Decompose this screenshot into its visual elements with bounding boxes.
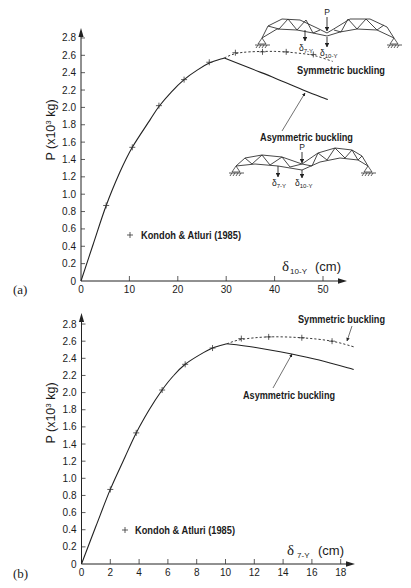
y-tick-label: 1.0	[62, 189, 76, 200]
annotation-asymmetric-buckling: Asymmetric buckling	[243, 390, 335, 401]
y-tick-label: 1.2	[63, 456, 77, 467]
x-axis-title: δ7-Y	[287, 542, 310, 560]
truss-bottom-chord	[262, 29, 394, 38]
y-tick-label: 2.8	[63, 319, 77, 330]
y-axis-title-unit: kg)	[44, 99, 58, 120]
x-tick-label: 30	[221, 284, 233, 295]
plus-marker-icon	[260, 49, 266, 55]
y-tick-label: 1.4	[63, 439, 77, 450]
x-axis-title-symbol: δ	[287, 542, 294, 558]
plus-marker-icon	[122, 527, 128, 533]
pin-support-icon	[387, 38, 402, 48]
annotation-symmetric-buckling: Symmetric buckling	[297, 65, 385, 76]
y-axis-title-unit: kg)	[44, 382, 58, 403]
x-axis-arrow-icon	[346, 561, 355, 567]
plus-marker-icon	[266, 334, 272, 340]
x-tick-label: 8	[194, 567, 200, 578]
x-axis-unit: (cm)	[318, 543, 344, 558]
x-axis-title-subscript: 7-Y	[297, 551, 310, 560]
y-axis-title-main: P (x10	[44, 408, 58, 444]
y-tick-label: 2.6	[63, 336, 77, 347]
x-tick-label: 16	[306, 567, 318, 578]
load-label: P	[299, 142, 305, 152]
x-tick-label: 2	[108, 567, 114, 578]
x-tick-label: 0	[79, 567, 85, 578]
panel-a: 00.20.40.60.81.01.21.41.61.82.02.22.42.6…	[13, 7, 402, 297]
y-tick-label: 0	[70, 276, 76, 287]
deflection-label-7y: δ7-Y	[272, 178, 286, 189]
y-tick-label: 2.8	[62, 32, 76, 43]
y-tick-label: 2.2	[63, 370, 77, 381]
pin-support-icon	[229, 166, 244, 176]
y-tick-label: 0.2	[62, 258, 76, 269]
plus-marker-icon	[299, 335, 305, 341]
y-tick-label: 1.8	[62, 119, 76, 130]
plus-marker-icon	[238, 336, 244, 342]
x-tick-label: 20	[172, 284, 184, 295]
x-tick-label: 4	[136, 567, 142, 578]
x-tick-label: 40	[269, 284, 281, 295]
panel-b: 00.20.40.60.81.01.21.41.61.82.02.22.42.6…	[13, 313, 385, 581]
deflection-label-10y: δ10-Y	[295, 178, 312, 189]
y-tick-label: 1.2	[62, 171, 76, 182]
y-tick-label: 0.4	[62, 241, 76, 252]
curve-primary_path	[81, 58, 224, 281]
legend: Kondoh & Atluri (1985)	[127, 230, 241, 241]
annotation-arrow-icon	[282, 93, 305, 131]
figure-canvas: 00.20.40.60.81.01.21.41.61.82.02.22.42.6…	[0, 0, 411, 588]
truss-diagram-symmetric: P δ7-Y δ10-Y	[255, 7, 402, 59]
x-axis-title-subscript: 10-Y	[290, 267, 308, 276]
plus-marker-icon	[129, 144, 135, 150]
y-tick-label: 0.6	[63, 507, 77, 518]
annotation-symmetric-buckling: Symmetric buckling	[298, 314, 385, 325]
chart-b: 00.20.40.60.81.01.21.41.61.82.02.22.42.6…	[63, 313, 356, 578]
panel-label: (a)	[13, 282, 27, 297]
y-tick-label: 0.4	[63, 524, 77, 535]
y-tick-label: 1.6	[62, 137, 76, 148]
truss-top-chord	[262, 19, 394, 38]
truss-diagram-asymmetric: P δ7-Y δ10-Y	[229, 142, 376, 189]
chart-a-series	[81, 49, 333, 281]
annotation-asymmetric-buckling: Asymmetric buckling	[260, 132, 353, 143]
plus-marker-icon	[329, 338, 335, 344]
y-tick-label: 2.0	[63, 387, 77, 398]
x-tick-label: 14	[278, 567, 290, 578]
plus-marker-icon	[107, 486, 113, 492]
y-axis-title: P (x103 kg)	[44, 382, 59, 443]
y-tick-label: 2.0	[62, 102, 76, 113]
y-tick-label: 1.4	[62, 154, 76, 165]
y-axis-title: P (x103 kg)	[44, 99, 59, 160]
plus-marker-icon	[133, 430, 139, 436]
x-tick-label: 18	[335, 567, 347, 578]
plus-marker-icon	[103, 202, 109, 208]
truss-web	[268, 19, 384, 33]
y-tick-label: 2.2	[62, 85, 76, 96]
curve-symmetric	[224, 51, 332, 61]
plus-marker-icon	[283, 49, 289, 55]
panel-label: (b)	[13, 566, 28, 581]
chart-b-axes: 00.20.40.60.81.01.21.41.61.82.02.22.42.6…	[63, 313, 355, 578]
pin-support-icon	[255, 38, 270, 48]
load-label: P	[324, 7, 330, 17]
figure: 00.20.40.60.81.01.21.41.61.82.02.22.42.6…	[0, 0, 411, 588]
y-axis-arrow-icon	[78, 28, 83, 37]
annotation-arrow-icon	[273, 354, 292, 388]
x-tick-label: 0	[78, 284, 84, 295]
plus-marker-icon	[232, 50, 238, 56]
y-tick-label: 0.8	[63, 490, 77, 501]
legend: Kondoh & Atluri (1985)	[122, 525, 235, 536]
deflection-label-10y: δ10-Y	[320, 48, 337, 59]
x-tick-label: 6	[165, 567, 171, 578]
y-tick-label: 0	[71, 559, 77, 570]
y-tick-label: 2.6	[62, 50, 76, 61]
y-tick-label: 0.6	[62, 223, 76, 234]
legend-label: Kondoh & Atluri (1985)	[135, 525, 235, 536]
y-axis-title-main: P (x10	[44, 125, 58, 161]
y-tick-label: 0.2	[63, 541, 77, 552]
annotation-arrow-icon	[347, 326, 352, 341]
y-axis-arrow-icon	[79, 313, 84, 322]
plus-marker-icon	[210, 345, 216, 351]
y-tick-label: 0.8	[62, 206, 76, 217]
plus-marker-icon	[127, 232, 133, 238]
x-axis-title: δ10-Y	[282, 258, 308, 276]
